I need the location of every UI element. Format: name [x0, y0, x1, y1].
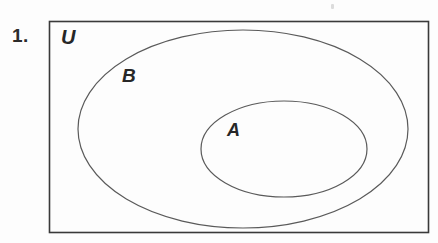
set-b-ellipse	[78, 30, 408, 228]
scan-artifact-speck	[331, 4, 334, 9]
set-a-ellipse	[201, 101, 367, 197]
set-b-label: B	[122, 66, 136, 85]
universal-set-label: U	[61, 27, 75, 47]
venn-diagram-page: 1. U B A	[0, 0, 438, 243]
set-a-label: A	[227, 121, 240, 139]
